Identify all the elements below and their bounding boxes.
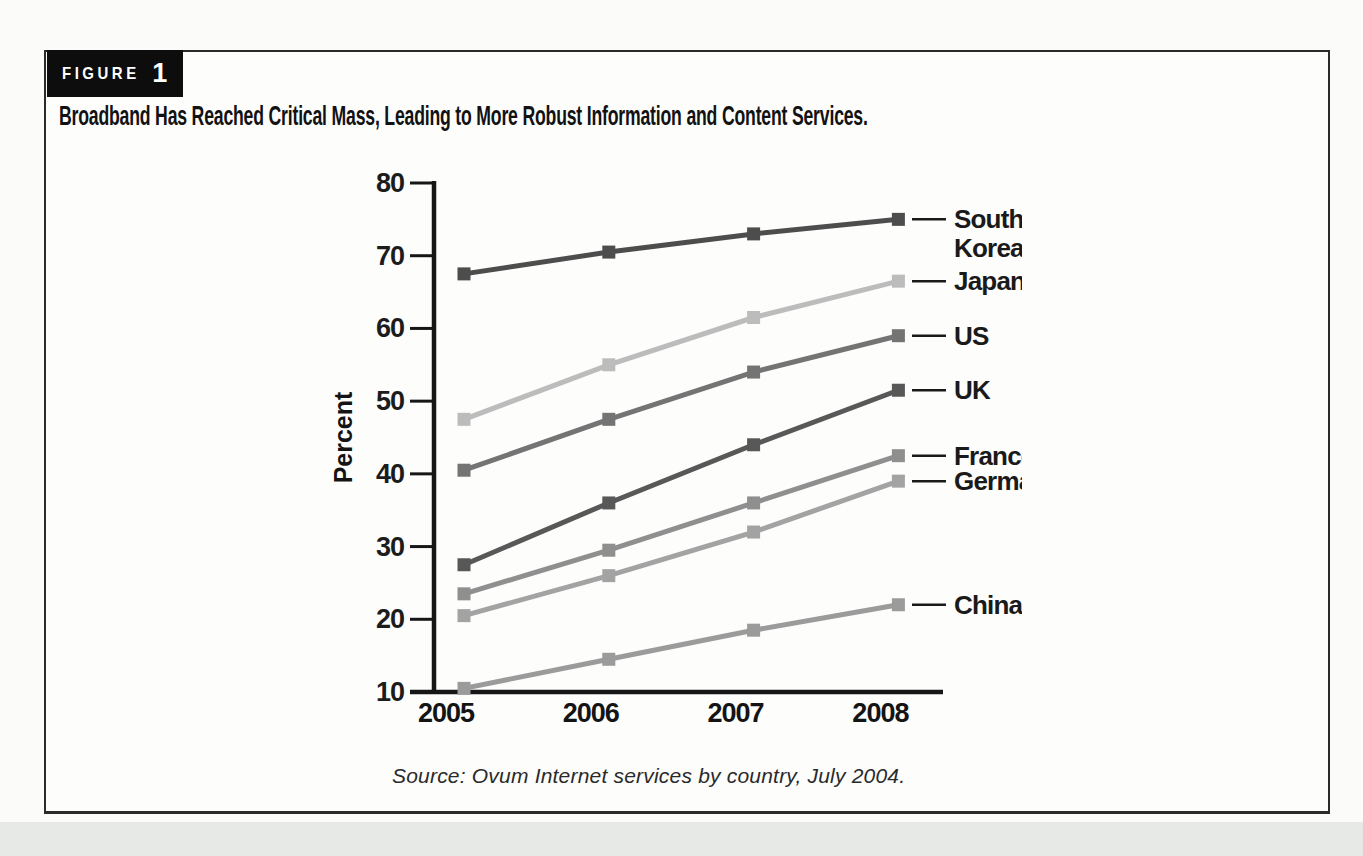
series-marker-france-2008: [892, 449, 905, 462]
legend-label-germany: Germany: [954, 466, 1022, 496]
y-tick-label-30: 30: [376, 532, 404, 562]
figure-frame: FIGURE 1 Broadband Has Reached Critical …: [44, 50, 1330, 814]
x-label-2006: 2006: [563, 698, 620, 728]
series-marker-germany-2008: [892, 475, 905, 488]
legend-label-japan: Japan: [954, 266, 1022, 296]
legend-label-line-uk-0: UK: [954, 375, 991, 405]
series-marker-china-2005: [458, 682, 471, 695]
y-tick-label-40: 40: [376, 459, 404, 489]
y-axis-title: Percent: [329, 391, 357, 483]
series-marker-uk-2005: [458, 558, 471, 571]
legend-label-line-us-0: US: [954, 321, 989, 351]
series-marker-south-korea-2008: [892, 213, 905, 226]
legend-label-line-germany-0: Germany: [954, 466, 1022, 496]
series-marker-china-2008: [892, 598, 905, 611]
series-marker-france-2007: [747, 496, 760, 509]
series-marker-south-korea-2005: [458, 267, 471, 280]
series-marker-china-2007: [747, 624, 760, 637]
series-marker-us-2008: [892, 329, 905, 342]
y-tick-label-50: 50: [376, 386, 404, 416]
series-line-south-korea: [464, 219, 898, 274]
series-marker-us-2005: [458, 464, 471, 477]
series-marker-china-2006: [602, 653, 615, 666]
page-bottom-strip: [0, 822, 1363, 856]
series-marker-germany-2005: [458, 609, 471, 622]
x-label-2008: 2008: [852, 698, 909, 728]
y-tick-label-80: 80: [376, 168, 404, 198]
legend-label-china: China: [954, 590, 1022, 620]
x-label-2007: 2007: [708, 698, 764, 728]
series-marker-south-korea-2007: [747, 227, 760, 240]
series-marker-us-2006: [602, 413, 615, 426]
legend-label-line-south-korea-0: South: [954, 204, 1022, 234]
series-marker-france-2006: [602, 544, 615, 557]
series-marker-uk-2007: [747, 438, 760, 451]
series-marker-germany-2006: [602, 569, 615, 582]
series-marker-germany-2007: [747, 526, 760, 539]
series-marker-japan-2005: [458, 413, 471, 426]
series-line-germany: [464, 481, 898, 616]
legend-label-line-south-korea-1: Korea: [954, 233, 1022, 263]
figure-label: FIGURE: [62, 64, 140, 84]
y-tick-label-60: 60: [376, 313, 404, 343]
x-label-2005: 2005: [418, 698, 475, 728]
y-tick-label-20: 20: [376, 604, 404, 634]
series-marker-japan-2008: [892, 275, 905, 288]
figure-label-box: FIGURE 1: [47, 50, 183, 97]
figure-title: Broadband Has Reached Critical Mass, Lea…: [59, 100, 1193, 132]
legend-label-line-japan-0: Japan: [954, 266, 1022, 296]
series-marker-uk-2008: [892, 384, 905, 397]
series-line-us: [464, 336, 898, 471]
figure-number: 1: [152, 58, 167, 89]
series-marker-france-2005: [458, 587, 471, 600]
y-tick-label-10: 10: [376, 677, 404, 707]
series-marker-us-2007: [747, 366, 760, 379]
page: FIGURE 1 Broadband Has Reached Critical …: [0, 0, 1363, 856]
y-tick-label-70: 70: [376, 241, 404, 271]
legend-label-line-china-0: China: [954, 590, 1022, 620]
broadband-line-chart: 10203040506070802005200620072008PercentS…: [322, 162, 1022, 742]
series-marker-south-korea-2006: [602, 246, 615, 259]
series-line-china: [464, 605, 898, 689]
series-marker-japan-2007: [747, 311, 760, 324]
legend-label-uk: UK: [954, 375, 991, 405]
source-note: Source: Ovum Internet services by countr…: [392, 764, 905, 788]
legend-label-us: US: [954, 321, 989, 351]
series-marker-japan-2006: [602, 358, 615, 371]
series-marker-uk-2006: [602, 496, 615, 509]
legend-label-south-korea: SouthKorea: [954, 204, 1022, 263]
